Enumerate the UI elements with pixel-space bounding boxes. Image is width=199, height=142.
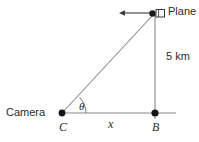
vertex-c-label: C [59,121,67,133]
hypotenuse-line [62,15,153,113]
vertex-b-label: B [152,121,159,133]
plane-icon [149,10,164,18]
plane-label: Plane [168,6,196,17]
point-c-marker [59,110,66,117]
camera-label: Camera [6,107,45,118]
point-b-marker [151,109,158,116]
angle-theta-label: θ [79,101,84,112]
triangle-diagram [0,0,199,142]
altitude-label: 5 km [166,51,190,62]
base-length-label: x [108,118,113,130]
arrow-left-icon [119,10,150,15]
